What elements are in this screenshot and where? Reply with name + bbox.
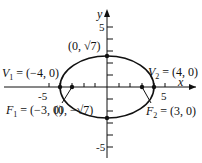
- vertex-v2-point: [152, 85, 156, 89]
- bottom-point: [105, 116, 109, 120]
- f2-label: F2 = (3, 0): [146, 105, 196, 120]
- v2-label: V2 = (4, 0): [148, 66, 198, 81]
- vertex-v1-point: [58, 85, 62, 89]
- top-point-label: (0, √7): [68, 40, 101, 52]
- f1-leader-line: [62, 87, 72, 103]
- f1-label: F1 = (−3, 0): [6, 104, 63, 119]
- f2-leader-line: [142, 87, 151, 103]
- y-tick-label-neg5: -5: [96, 142, 105, 153]
- y-axis-arrow-icon: [104, 9, 110, 17]
- x-tick-label-neg5: -5: [38, 91, 47, 102]
- y-axis-label: y: [97, 8, 102, 20]
- top-point: [105, 54, 109, 58]
- x-tick-label-5: 5: [161, 91, 167, 102]
- y-tick-label-5: 5: [99, 22, 105, 33]
- v1-label: V1 = (−4, 0): [2, 67, 59, 82]
- x-axis-arrow-icon: [189, 84, 196, 90]
